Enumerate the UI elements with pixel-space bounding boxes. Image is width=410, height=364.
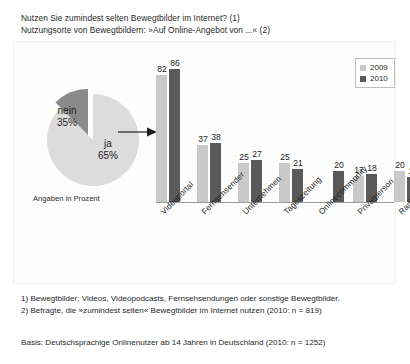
footnotes-block: 1) Bewegtbilder: Videos, Videopodcasts, … [21, 293, 401, 317]
pie-label-ja-name: ja [88, 138, 128, 150]
arrow-right-icon [118, 125, 158, 139]
bar-value-2010-unternehmen: 27 [246, 149, 268, 159]
bar-value-2010-videoportal: 86 [164, 58, 186, 68]
pie-chart: nein 35% ja 65% [31, 80, 151, 200]
bar-2009-fernsehsender [197, 145, 208, 202]
footnote-1: 1) Bewegtbilder: Videos, Videopodcasts, … [21, 293, 401, 305]
pie-label-ja-value: 65% [88, 150, 128, 162]
pie-label-nein-value: 35% [43, 117, 91, 129]
basis-note: Basis: Deutschsprachige Onlinenutzer ab … [21, 337, 325, 349]
bar-value-2010-onlinecommunity: 20 [328, 160, 350, 170]
bar-group-videoportal: 82 86 [156, 47, 180, 202]
units-note: Angaben in Prozent [33, 194, 100, 203]
x-axis-baseline [156, 202, 394, 203]
bar-2010-videoportal [169, 69, 180, 202]
bar-group-fernsehsender: 37 38 [197, 47, 221, 202]
bar-value-2010-radiosender: 16 [402, 166, 410, 176]
footnote-2: 2) Befragte, die »zumindest selten« Bewe… [21, 305, 401, 317]
bar-group-onlinecommunity: 20 [320, 47, 344, 202]
pie-label-nein: nein 35% [43, 105, 91, 129]
bar-value-2010-fernsehsender: 38 [205, 132, 227, 142]
title-line-1: Nutzen Sie zumindest selten Bewegtbilder… [21, 12, 391, 24]
bar-2009-videoportal [156, 75, 167, 202]
chart-panel: 2009 2010 nein 35% ja 65% Angaben in Pro… [13, 41, 396, 284]
chart-title-block: Nutzen Sie zumindest selten Bewegtbilder… [21, 12, 391, 37]
pie-label-nein-name: nein [43, 105, 91, 117]
bar-value-2010-tageszeitung: 21 [287, 158, 309, 168]
title-line-2: Nutzungsorte von Bewegtbildern: »Auf Onl… [21, 24, 391, 36]
bar-group-radiosender: 20 16 [394, 47, 410, 202]
pie-label-ja: ja 65% [88, 138, 128, 162]
